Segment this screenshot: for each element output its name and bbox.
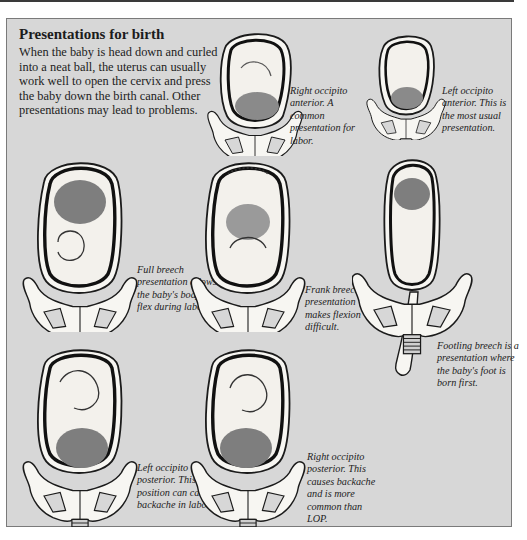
caption-left-occipito-anterior: Left occipito anterior. This is the most… bbox=[442, 85, 517, 135]
uterus-illustration-icon bbox=[18, 342, 140, 527]
figure-full-breech bbox=[18, 152, 140, 332]
uterus-illustration-icon bbox=[365, 30, 447, 140]
panel-title: Presentations for birth bbox=[19, 26, 164, 43]
uterus-illustration-icon bbox=[18, 152, 140, 332]
figure-left-occipito-posterior bbox=[18, 342, 140, 527]
caption-right-occipito-anterior: Right occipito anterior. A common presen… bbox=[290, 85, 365, 147]
caption-right-occipito-posterior: Right occipito posterior. This causes ba… bbox=[307, 451, 385, 525]
figure-right-occipito-posterior bbox=[186, 342, 308, 527]
intro-text: When the baby is head down and curled in… bbox=[19, 45, 219, 118]
uterus-illustration-icon bbox=[186, 152, 308, 332]
figure-frank-breech bbox=[186, 152, 308, 332]
uterus-illustration-icon bbox=[186, 342, 308, 527]
caption-footling-breech: Footling breech is a presentation where … bbox=[437, 340, 519, 390]
top-rule bbox=[0, 0, 514, 2]
figure-left-occipito-anterior bbox=[365, 30, 447, 140]
